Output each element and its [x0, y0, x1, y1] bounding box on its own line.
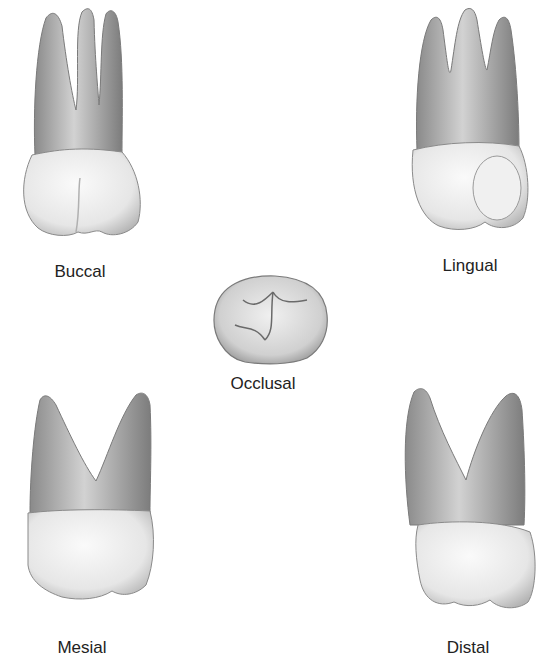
- label-lingual: Lingual: [443, 256, 498, 276]
- mesial-tooth-illustration: [0, 385, 200, 667]
- tooth-view-buccal: Buccal: [0, 0, 200, 300]
- lingual-tooth-illustration: [395, 0, 551, 290]
- tooth-view-occlusal: Occlusal: [195, 270, 355, 410]
- buccal-tooth-illustration: [0, 0, 200, 300]
- tooth-view-lingual: Lingual: [395, 0, 551, 290]
- tooth-view-mesial: Mesial: [0, 385, 200, 667]
- distal-tooth-illustration: [380, 380, 551, 667]
- tooth-view-distal: Distal: [380, 380, 551, 667]
- label-distal: Distal: [447, 638, 490, 658]
- label-mesial: Mesial: [57, 638, 106, 658]
- label-occlusal: Occlusal: [230, 374, 295, 394]
- label-buccal: Buccal: [54, 262, 105, 282]
